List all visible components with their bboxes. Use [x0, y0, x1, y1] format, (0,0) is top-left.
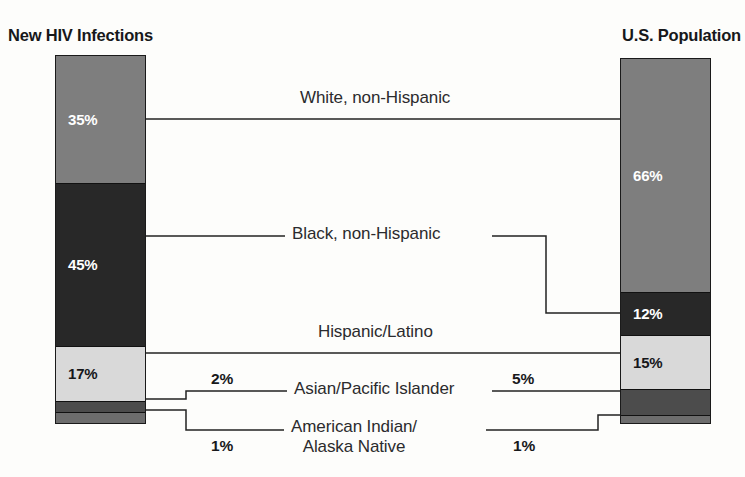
- right-segment-hispanic: 15%: [621, 335, 710, 390]
- right-segment-black-value: 12%: [621, 305, 662, 322]
- callout-hispanic: Hispanic/Latino: [311, 322, 440, 342]
- callout-american-indian: American Indian/ Alaska Native: [284, 417, 424, 457]
- left-segment-hispanic: 17%: [56, 346, 145, 401]
- left-segment-hispanic-value: 17%: [56, 365, 97, 382]
- callout-american-indian-line1: American Indian/: [291, 417, 417, 437]
- left-asian-percent: 2%: [211, 370, 233, 388]
- leader-american-indian-left: [146, 410, 294, 430]
- right-segment-hispanic-value: 15%: [621, 354, 662, 371]
- left-bar-title: New HIV Infections: [8, 26, 153, 45]
- right-segment-black: 12%: [621, 292, 710, 335]
- leader-american-indian-right: [486, 415, 620, 430]
- leader-asian-left: [146, 391, 288, 399]
- right-bar-title: U.S. Population: [622, 26, 741, 45]
- leader-black-right: [492, 236, 620, 313]
- left-segment-white: 35%: [56, 56, 145, 183]
- right-asian-percent: 5%: [512, 370, 534, 388]
- callout-asian: Asian/Pacific Islander: [287, 379, 461, 399]
- left-segment-white-value: 35%: [56, 111, 97, 128]
- right-segment-asian: [621, 389, 710, 414]
- left-american-indian-percent: 1%: [211, 437, 233, 455]
- right-stacked-bar: 66% 12% 15%: [620, 58, 711, 424]
- right-segment-white-value: 66%: [621, 167, 662, 184]
- right-segment-american-indian: [621, 415, 710, 423]
- callout-american-indian-line2: Alaska Native: [291, 437, 417, 457]
- left-segment-black: 45%: [56, 183, 145, 346]
- left-segment-asian: [56, 401, 145, 412]
- callout-white: White, non-Hispanic: [293, 88, 457, 108]
- right-american-indian-percent: 1%: [513, 437, 535, 455]
- callout-black: Black, non-Hispanic: [285, 224, 447, 244]
- left-stacked-bar: 35% 45% 17%: [55, 55, 146, 424]
- right-segment-white: 66%: [621, 59, 710, 292]
- chart-figure: New HIV Infections U.S. Population 35% 4…: [0, 0, 745, 477]
- left-segment-american-indian: [56, 412, 145, 423]
- left-segment-black-value: 45%: [56, 256, 97, 273]
